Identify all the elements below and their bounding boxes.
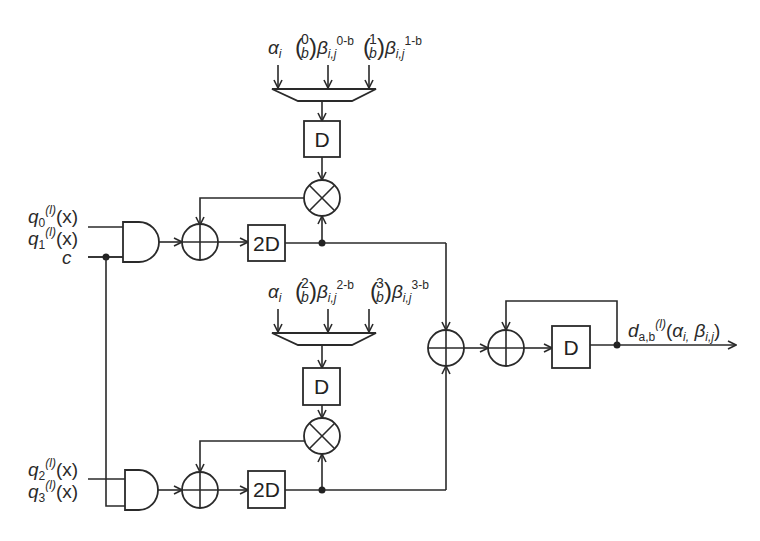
top-mux-input-beta1: (1b)βi,j1-b [363, 34, 422, 60]
accumulate-adder [488, 330, 524, 366]
bottom-mux [272, 333, 376, 345]
bottom-mux-input-alpha: αi [268, 282, 282, 304]
bottom-mux-input-beta3: (3b)βi,j3-b [370, 278, 429, 304]
top-mux-input-alpha: αi [268, 38, 282, 60]
bottom-2d-delay-box: 2D [248, 471, 285, 508]
output-label: da,b(l)(αi, βi,j) [628, 318, 720, 343]
bottom-delay-box: D [303, 368, 340, 405]
bottom-multiplier [304, 418, 340, 454]
input-q3: q3(l)(x) [28, 479, 78, 504]
top-mux-input-beta0: (0b)βi,j0-b [295, 34, 354, 60]
top-mux [272, 89, 376, 101]
bottom-2d-label: 2D [253, 478, 280, 501]
bottom-and-gate [125, 470, 158, 510]
circuit-diagram: D 2D D [0, 0, 760, 541]
bottom-junction [319, 487, 326, 494]
top-adder [182, 224, 218, 260]
bottom-delay-label: D [314, 375, 329, 398]
top-delay-label: D [314, 128, 329, 151]
bottom-adder [182, 472, 218, 508]
top-mux-input-arrows [278, 65, 369, 88]
output-delay-box: D [552, 326, 590, 368]
top-multiplier [304, 180, 340, 216]
bottom-mux-input-arrows [278, 309, 369, 332]
top-delay-box: D [304, 121, 340, 157]
top-2d-delay-box: 2D [248, 225, 285, 261]
bottom-mux-input-beta2: (2b)βi,j2-b [295, 278, 354, 304]
top-junction [319, 240, 326, 247]
output-delay-label: D [563, 336, 578, 359]
top-and-gate [123, 222, 159, 262]
top-2d-label: 2D [253, 232, 280, 255]
sum-adder [428, 330, 464, 366]
input-c: c [62, 248, 72, 267]
